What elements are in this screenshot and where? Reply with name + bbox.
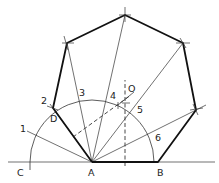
division-label-1: 1 (20, 123, 26, 134)
radial-line-6 (92, 105, 206, 162)
radial-line-1 (27, 131, 92, 162)
division-label-6: 6 (155, 132, 161, 143)
label-O: O (128, 83, 135, 94)
heptagon-construction-diagram: A B C D O 1 2 3 4 5 6 (0, 0, 219, 183)
division-label-4: 4 (110, 90, 116, 101)
label-A: A (88, 167, 95, 178)
label-B: B (157, 167, 164, 178)
heptagon-outline (53, 15, 196, 162)
division-label-5: 5 (137, 104, 143, 115)
division-label-3: 3 (79, 87, 85, 98)
label-D: D (50, 113, 57, 124)
division-semicircle (30, 100, 154, 170)
label-C: C (17, 167, 24, 178)
division-label-2: 2 (41, 95, 47, 106)
